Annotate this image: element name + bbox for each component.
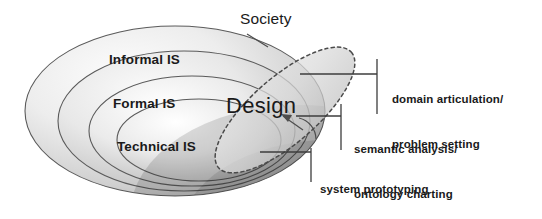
diagram-canvas: Informal IS Formal IS Technical IS Socie… [0, 0, 542, 219]
annotation-1-line-1: domain articulation/ [392, 92, 503, 107]
ring-label-informal-is: Informal IS [109, 52, 180, 68]
annotation-3-line-1: system prototyping [320, 182, 429, 197]
ring-label-formal-is: Formal IS [113, 96, 175, 112]
ring-label-technical-is: Technical IS [117, 139, 196, 155]
overlay-label-design: Design [226, 93, 296, 119]
annotation-system-prototyping: system prototyping [320, 153, 429, 219]
outer-label-society: Society [240, 10, 292, 28]
